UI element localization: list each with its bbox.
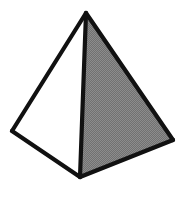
figure-canvas: Square pyramid line drawing xyxy=(0,0,188,207)
pyramid-figure: Square pyramid line drawing xyxy=(0,0,188,207)
